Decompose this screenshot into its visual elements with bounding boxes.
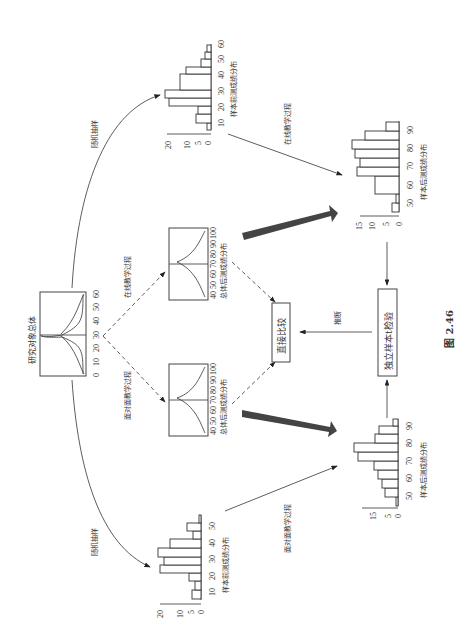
svg-text:40: 40 (209, 427, 218, 435)
svg-text:10: 10 (217, 119, 226, 127)
svg-text:直接比较: 直接比较 (276, 318, 287, 354)
random-sampling-label-bottom: 随机抽样 (90, 528, 99, 556)
dashed-arrow-online-process (103, 272, 165, 336)
histogram-face-pretest: 20 10 5 0 10 20 30 40 50 样本前测成绩分布 (156, 515, 230, 618)
inference-label: 推断 (333, 311, 342, 325)
face-sample-process-arrow (225, 466, 337, 511)
svg-text:40: 40 (92, 317, 101, 325)
svg-text:0: 0 (395, 222, 404, 226)
fat-arrow-online (242, 205, 338, 240)
online-sample-process-label: 在线教学过程 (283, 103, 292, 145)
svg-text:60: 60 (209, 406, 218, 414)
svg-text:40: 40 (209, 291, 218, 299)
histogram-title: 样本后测成绩分布 (419, 442, 428, 498)
svg-text:90: 90 (405, 422, 414, 430)
svg-text:80: 80 (406, 144, 415, 152)
online-post-population: 40 50 60 70 80 90 100 总体后测成绩分布 (169, 227, 228, 300)
online-process-label: 在线教学过程 (123, 256, 132, 298)
histogram-title: 样本后测成绩分布 (419, 144, 428, 200)
svg-text:50: 50 (209, 417, 218, 425)
independent-t-test-box: 独立样本t检验 (378, 289, 397, 376)
svg-text:30: 30 (217, 87, 226, 95)
svg-text:10: 10 (176, 610, 185, 618)
svg-text:5: 5 (384, 514, 393, 518)
svg-text:70: 70 (406, 162, 415, 170)
svg-text:60: 60 (217, 40, 226, 48)
svg-text:50: 50 (406, 199, 415, 207)
figure-caption: 图 2.46 (444, 310, 455, 348)
svg-text:90: 90 (209, 376, 218, 384)
svg-text:5: 5 (382, 222, 391, 226)
svg-text:0: 0 (197, 610, 206, 614)
svg-text:70: 70 (405, 457, 414, 465)
svg-text:10: 10 (92, 358, 101, 366)
svg-text:15: 15 (369, 512, 378, 520)
svg-text:40: 40 (208, 539, 217, 547)
population-title: 研究对象总体 (27, 316, 37, 364)
histogram-title: 样本前测成绩分布 (229, 61, 238, 117)
svg-text:100: 100 (209, 227, 218, 239)
histogram-face-posttest: 15 5 0 50 60 70 80 90 样本后测成绩分布 (354, 419, 428, 520)
histogram-title: 样本前测成绩分布 (221, 537, 230, 593)
svg-text:60: 60 (209, 270, 218, 278)
svg-text:100: 100 (209, 363, 218, 375)
dashed-arrow-online-to-compare (232, 262, 275, 302)
face-process-label: 面对面教学过程 (123, 371, 132, 420)
svg-text:0: 0 (394, 514, 403, 518)
svg-text:50: 50 (405, 492, 414, 500)
random-sampling-label-top: 随机抽样 (90, 120, 99, 148)
sampling-arrow-online (72, 95, 160, 288)
svg-text:90: 90 (209, 240, 218, 248)
svg-text:5: 5 (194, 141, 203, 145)
svg-text:70: 70 (209, 260, 218, 268)
svg-text:50: 50 (217, 55, 226, 63)
dashed-arrow-face-to-compare (232, 362, 275, 404)
svg-text:90: 90 (406, 126, 415, 134)
svg-text:10: 10 (368, 222, 377, 230)
svg-text:50: 50 (92, 303, 101, 311)
face-post-population: 40 50 60 70 80 90 100 总体后测成绩分布 (169, 363, 228, 436)
diagram-canvas: 0 10 20 30 40 50 60 研究对象总体 随机抽样 随机抽样 在线教… (0, 0, 473, 633)
svg-text:15: 15 (355, 222, 364, 230)
svg-text:30: 30 (92, 331, 101, 339)
svg-text:5: 5 (187, 610, 196, 614)
svg-text:30: 30 (208, 555, 217, 563)
svg-text:20: 20 (92, 344, 101, 352)
svg-text:60: 60 (406, 181, 415, 189)
svg-text:80: 80 (405, 439, 414, 447)
online-post-ticks: 40 50 60 70 80 90 100 (209, 227, 218, 299)
histogram-online-posttest: 15 10 5 0 50 60 70 80 90 样本后测成绩分布 (352, 121, 428, 230)
svg-text:80: 80 (209, 386, 218, 394)
fat-arrow-face (242, 410, 337, 437)
direct-compare-box: 直接比较 (272, 303, 290, 362)
svg-text:0: 0 (204, 141, 213, 145)
svg-text:50: 50 (209, 281, 218, 289)
svg-text:10: 10 (183, 141, 192, 149)
face-sample-process-label: 面对面教学过程 (283, 504, 292, 553)
population-distribution: 0 10 20 30 40 50 60 研究对象总体 (27, 290, 101, 377)
svg-text:60: 60 (92, 290, 101, 298)
svg-text:20: 20 (156, 610, 165, 618)
svg-text:40: 40 (217, 71, 226, 79)
svg-text:0: 0 (92, 373, 101, 377)
svg-text:20: 20 (217, 103, 226, 111)
svg-text:独立样本t检验: 独立样本t检验 (383, 312, 394, 370)
svg-text:70: 70 (209, 396, 218, 404)
sampling-arrow-face (72, 380, 150, 567)
dashed-arrow-face-process (103, 336, 165, 402)
svg-text:10: 10 (208, 588, 217, 596)
svg-text:80: 80 (209, 250, 218, 258)
svg-text:60: 60 (405, 474, 414, 482)
face-post-ticks: 40 50 60 70 80 90 100 (209, 363, 218, 435)
svg-text:20: 20 (164, 141, 173, 149)
histogram-online-pretest: 20 10 5 0 10 20 30 40 50 60 样本前测成绩分布 (164, 40, 238, 149)
face-post-label: 总体后测成绩分布 (219, 379, 228, 435)
svg-text:50: 50 (208, 522, 217, 530)
population-ticks: 0 10 20 30 40 50 60 (92, 290, 101, 377)
online-post-label: 总体后测成绩分布 (219, 243, 228, 299)
svg-text:20: 20 (208, 572, 217, 580)
